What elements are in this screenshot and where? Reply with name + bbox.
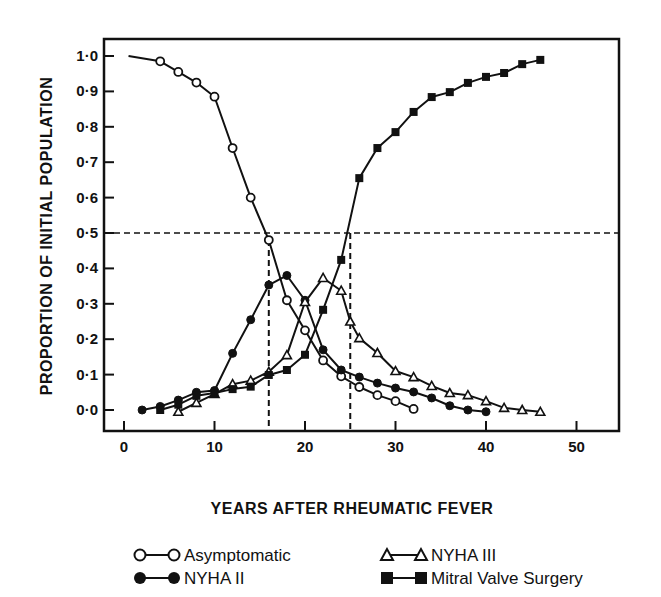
open-circle-marker [301,326,309,334]
open-triangle-marker [536,407,545,415]
filled-circle-marker [373,379,381,387]
filled-square-marker [500,69,508,77]
open-circle-marker [392,397,400,405]
filled-circle-marker [283,271,291,279]
y-tick-label: 1·0 [76,47,98,64]
y-tick-label: 0·0 [76,401,98,418]
legend-marker [134,572,146,584]
y-axis-title: PROPORTION OF INITIAL POPULATION [38,77,55,396]
legend-marker [169,550,180,561]
survival-chart: 0·00·10·20·30·40·50·60·70·80·91·0 010203… [0,0,661,597]
x-tick-label: 10 [206,438,223,455]
legend-item-mitral-valve-surgery: Mitral Valve Surgery [381,569,583,588]
plot-border [104,39,619,431]
x-tick-label: 40 [478,438,495,455]
filled-circle-marker [229,349,237,357]
filled-square-marker [192,392,200,400]
legend-label: NYHA III [431,546,496,565]
open-circle-marker [192,79,200,87]
open-circle-marker [229,144,237,152]
open-circle-marker [283,296,291,304]
filled-square-marker [229,385,237,393]
filled-circle-marker [428,394,436,402]
open-circle-marker [156,57,164,65]
x-axis-title: YEARS AFTER RHEUMATIC FEVER [211,500,494,517]
legend-label: NYHA II [184,569,244,588]
y-axis: 0·00·10·20·30·40·50·60·70·80·91·0 [76,47,114,418]
open-circle-marker [174,68,182,76]
open-triangle-marker [282,351,291,359]
filled-square-marker [392,128,400,136]
open-triangle-marker [355,334,364,342]
filled-circle-marker [319,346,327,354]
y-tick-label: 0·4 [76,259,98,276]
filled-square-marker [482,73,490,81]
series-asymptomatic [129,56,418,413]
filled-square-marker [211,389,219,397]
filled-circle-marker [247,316,255,324]
y-tick-label: 0·3 [76,295,98,312]
filled-square-marker [355,174,363,182]
filled-square-marker [156,406,164,414]
legend-item-nyha-ii: NYHA II [134,569,244,588]
series-nyha-iii [174,273,545,415]
x-tick-label: 20 [297,438,314,455]
filled-circle-icon [134,572,180,584]
y-tick-label: 0·1 [76,366,98,383]
x-tick-label: 30 [387,438,404,455]
open-triangle-marker [427,381,436,389]
legend-label: Mitral Valve Surgery [431,569,583,588]
open-triangle-marker [482,397,491,405]
open-circle-icon [135,550,180,561]
y-tick-label: 0·9 [76,82,98,99]
open-circle-marker [247,194,255,202]
filled-square-marker [518,60,526,68]
filled-square-marker [536,56,544,64]
legend-marker [168,572,180,584]
open-circle-marker [355,383,363,391]
y-tick-label: 0·6 [76,189,98,206]
x-tick-label: 0 [120,438,128,455]
legend-marker [415,572,427,584]
y-tick-label: 0·2 [76,330,98,347]
filled-square-marker [265,371,273,379]
filled-square-marker [464,79,472,87]
open-triangle-marker [518,406,527,414]
open-circle-marker [410,405,418,413]
open-triangle-marker [409,373,418,381]
legend-label: Asymptomatic [184,546,291,565]
filled-square-marker [301,351,309,359]
filled-square-marker [410,108,418,116]
filled-circle-marker [410,388,418,396]
filled-square-marker [319,306,327,314]
filled-square-marker [174,401,182,409]
filled-circle-marker [265,281,273,289]
filled-circle-marker [392,384,400,392]
x-axis: 01020304050 [120,421,585,455]
data-series [129,56,545,416]
filled-square-marker [247,383,255,391]
y-tick-label: 0·8 [76,118,98,135]
open-circle-marker [319,356,327,364]
plot-frame [104,39,619,431]
filled-circle-marker [337,366,345,374]
legend-marker [381,572,393,584]
open-triangle-marker [463,391,472,399]
filled-square-marker [337,256,345,264]
y-tick-label: 0·5 [76,224,98,241]
legend-item-asymptomatic: Asymptomatic [135,546,292,565]
open-triangle-marker [319,273,328,281]
open-circle-marker [265,236,273,244]
open-circle-marker [373,391,381,399]
series-line [129,56,414,409]
filled-square-marker [373,144,381,152]
open-triangle-marker [346,317,355,325]
legend-item-nyha-iii: NYHA III [381,546,496,565]
filled-circle-marker [446,402,454,410]
open-circle-marker [211,93,219,101]
filled-circle-marker [482,408,490,416]
legend-marker [135,550,146,561]
filled-circle-marker [464,406,472,414]
filled-square-marker [428,93,436,101]
filled-circle-marker [138,406,146,414]
